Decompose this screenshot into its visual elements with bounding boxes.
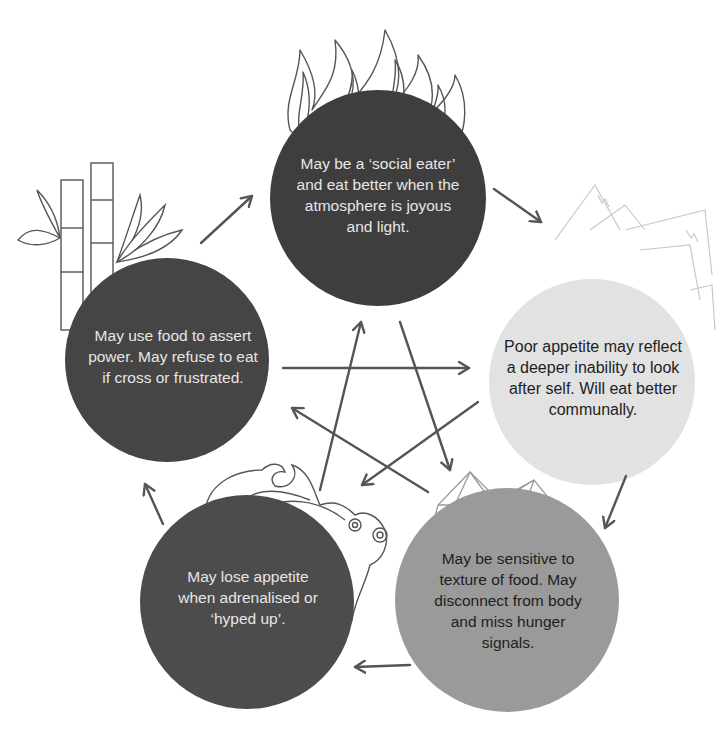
arrow-earth-to-water: [362, 402, 478, 485]
earth-text: Poor appetite may reflect a deeper inabi…: [504, 316, 682, 440]
inner-star-arrows: [283, 322, 478, 492]
fire-text: May be a ‘social eater’ and eat better w…: [290, 130, 466, 260]
arrow-wood-to-fire: [201, 196, 252, 243]
arrow-water-to-fire: [320, 322, 361, 490]
metal-description: May be sensitive to texture of food. May…: [428, 548, 588, 653]
arrow-metal-to-wood: [292, 408, 428, 492]
arrow-earth-to-metal: [605, 476, 626, 528]
metal-text: May be sensitive to texture of food. May…: [428, 538, 588, 662]
wood-text: May use food to assert power. May refuse…: [88, 308, 258, 404]
arrow-water-to-wood: [145, 484, 163, 524]
fire-description: May be a ‘social eater’ and eat better w…: [290, 153, 466, 237]
arrow-fire-to-metal: [400, 322, 450, 470]
earth-description: Poor appetite may reflect a deeper inabi…: [504, 336, 682, 420]
wood-description: May use food to assert power. May refuse…: [88, 325, 258, 388]
water-text: May lose appetite when adrenalised or ‘h…: [168, 560, 328, 634]
water-description: May lose appetite when adrenalised or ‘h…: [168, 566, 328, 629]
arrow-metal-to-water: [355, 665, 410, 667]
arrow-fire-to-earth: [494, 189, 541, 222]
